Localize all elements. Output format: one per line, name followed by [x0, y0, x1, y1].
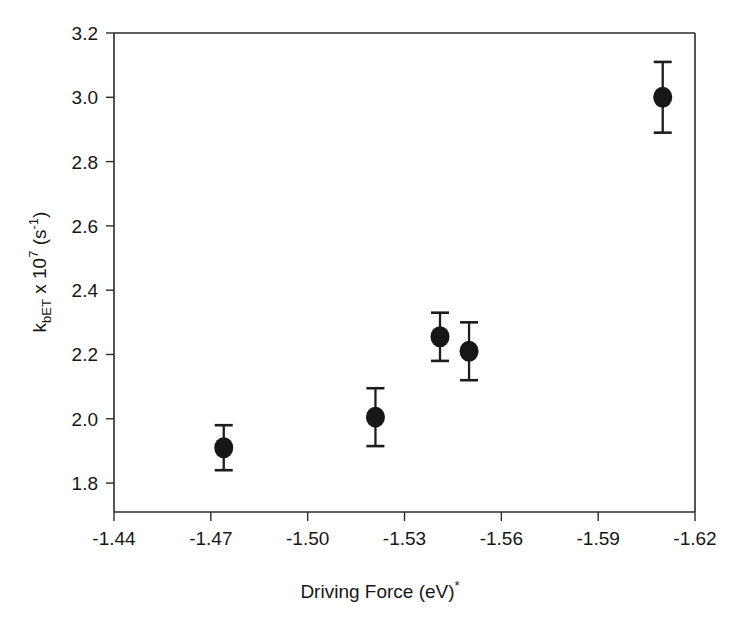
- data-point-marker: [366, 407, 385, 428]
- data-point-marker: [460, 341, 479, 362]
- x-tick-label: -1.50: [286, 528, 329, 549]
- data-series: [214, 62, 672, 470]
- svg-text:Driving Force (eV)*: Driving Force (eV)*: [300, 578, 459, 602]
- y-axis-title-tail-exponent: -1: [26, 218, 41, 230]
- data-point-marker: [653, 87, 672, 108]
- y-tick-label: 2.8: [72, 152, 98, 173]
- x-tick-label: -1.56: [480, 528, 523, 549]
- x-tick-label: -1.53: [383, 528, 426, 549]
- y-tick-label: 1.8: [72, 473, 98, 494]
- y-axis-title-main: k: [29, 322, 50, 332]
- y-tick-label: 2.6: [72, 216, 98, 237]
- x-tick-label: -1.44: [92, 528, 136, 549]
- x-tick-label: -1.62: [673, 528, 716, 549]
- y-tick-label: 3.2: [72, 23, 98, 44]
- y-tick-label: 2.4: [72, 280, 99, 301]
- data-point-marker: [214, 437, 233, 458]
- y-axis-ticks: 1.82.02.22.42.62.83.03.2: [72, 23, 114, 494]
- x-axis-title: Driving Force (eV)*: [300, 578, 459, 602]
- x-axis-title-superscript: *: [455, 578, 460, 593]
- y-axis-title-tail-end: ): [29, 212, 50, 218]
- y-tick-label: 2.0: [72, 409, 98, 430]
- y-axis-title: kbET x 107 (s-1): [26, 212, 54, 333]
- y-tick-label: 3.0: [72, 87, 98, 108]
- y-axis-title-tail: (s: [29, 230, 50, 251]
- x-tick-label: -1.59: [577, 528, 620, 549]
- y-axis-title-mid: x 10: [29, 258, 50, 299]
- chart-figure: 1.82.02.22.42.62.83.03.2 -1.44-1.47-1.50…: [0, 0, 743, 636]
- data-point-marker: [431, 326, 450, 347]
- x-tick-label: -1.47: [189, 528, 232, 549]
- x-axis-title-text: Driving Force (eV): [300, 581, 454, 602]
- y-axis-title-sub: bET: [39, 299, 54, 323]
- axes-frame: [114, 33, 695, 512]
- x-axis-ticks: -1.44-1.47-1.50-1.53-1.56-1.59-1.62: [92, 512, 716, 549]
- svg-text:kbET x 107 (s-1): kbET x 107 (s-1): [26, 212, 54, 333]
- y-axis-title-exponent: 7: [26, 251, 41, 258]
- y-tick-label: 2.2: [72, 344, 98, 365]
